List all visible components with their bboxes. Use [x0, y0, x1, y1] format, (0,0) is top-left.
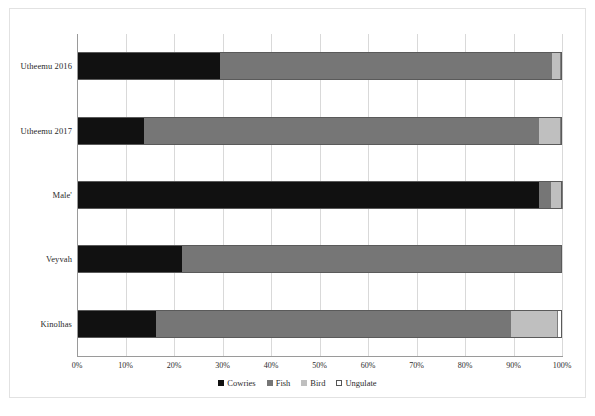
- category-label: Male': [2, 190, 72, 200]
- bar-segment-cowries: [77, 181, 539, 209]
- bar-segment-fish: [144, 117, 539, 145]
- legend-label: Cowries: [227, 378, 255, 388]
- legend-item-bird[interactable]: Bird: [301, 378, 325, 388]
- bar-segment-cowries: [77, 52, 220, 80]
- bar-segment-ungulate: [560, 52, 562, 80]
- legend-item-cowries[interactable]: Cowries: [218, 378, 255, 388]
- stacked-bar-chart: Utheemu 2016Utheemu 2017Male'VeyvahKinol…: [0, 0, 595, 416]
- legend-swatch-icon: [336, 380, 342, 386]
- x-tick-label: 70%: [397, 360, 437, 372]
- legend-label: Bird: [310, 378, 325, 388]
- bar-row: [77, 52, 562, 80]
- x-tick-label: 40%: [251, 360, 291, 372]
- category-label: Kinolhas: [2, 319, 72, 329]
- x-tick-label: 0%: [57, 360, 97, 372]
- bar-segment-ungulate: [561, 181, 563, 209]
- y-axis-line: [77, 34, 78, 357]
- bar-segment-cowries: [77, 117, 144, 145]
- legend-swatch-icon: [267, 380, 273, 386]
- legend-swatch-icon: [218, 380, 224, 386]
- plot-area: [77, 34, 562, 356]
- bar-segment-bird: [511, 310, 557, 338]
- legend-swatch-icon: [301, 380, 307, 386]
- x-tick-label: 90%: [494, 360, 534, 372]
- legend-item-ungulate[interactable]: Ungulate: [336, 378, 376, 388]
- x-tick-label: 100%: [542, 360, 582, 372]
- x-axis-line: [77, 356, 563, 357]
- chart-legend: CowriesFishBirdUngulate: [0, 378, 595, 388]
- bar-segment-ungulate: [560, 117, 562, 145]
- category-label: Utheemu 2016: [2, 61, 72, 71]
- x-tick-label: 10%: [106, 360, 146, 372]
- bar-segment-fish: [156, 310, 511, 338]
- bar-segment-bird: [539, 117, 559, 145]
- legend-item-fish[interactable]: Fish: [267, 378, 291, 388]
- x-tick-label: 20%: [154, 360, 194, 372]
- x-tick-label: 50%: [300, 360, 340, 372]
- bar-row: [77, 245, 562, 273]
- category-label: Utheemu 2017: [2, 126, 72, 136]
- bar-segment-fish: [220, 52, 552, 80]
- bar-row: [77, 181, 563, 209]
- x-tick-label: 60%: [348, 360, 388, 372]
- category-label: Veyvah: [2, 254, 72, 264]
- bar-segment-fish: [182, 245, 562, 273]
- bar-segment-bird: [551, 181, 560, 209]
- category-axis-labels: Utheemu 2016Utheemu 2017Male'VeyvahKinol…: [0, 34, 72, 356]
- bar-segment-cowries: [77, 245, 182, 273]
- bar-segment-fish: [539, 181, 551, 209]
- bar-segment-ungulate: [557, 310, 562, 338]
- x-axis-tick-labels: 0%10%20%30%40%50%60%70%80%90%100%: [0, 360, 595, 374]
- x-tick-label: 30%: [203, 360, 243, 372]
- bar-row: [77, 117, 562, 145]
- legend-label: Ungulate: [345, 378, 376, 388]
- bar-segment-cowries: [77, 310, 156, 338]
- bar-row: [77, 310, 562, 338]
- bar-segment-bird: [552, 52, 559, 80]
- legend-label: Fish: [276, 378, 291, 388]
- x-tick-label: 80%: [445, 360, 485, 372]
